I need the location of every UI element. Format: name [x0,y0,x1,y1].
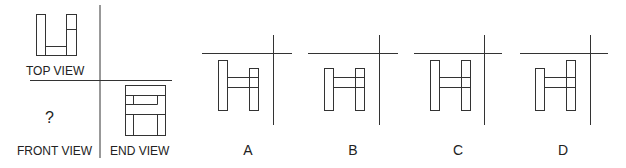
top-view-drawing [37,15,77,56]
option-a-drawing[interactable] [202,35,292,125]
end-view-drawing [126,86,166,136]
option-c-label[interactable]: C [453,142,463,158]
unknown-front-view-marker: ? [45,109,54,127]
option-c-drawing[interactable] [414,35,502,125]
top-view-label: TOP VIEW [26,64,84,78]
front-view-label: FRONT VIEW [17,144,92,158]
option-d-label[interactable]: D [558,142,568,158]
option-d-drawing[interactable] [520,35,608,125]
option-a-label[interactable]: A [243,142,252,158]
orthographic-diagram [0,0,626,168]
end-view-label: END VIEW [110,144,169,158]
option-b-drawing[interactable] [308,35,398,125]
option-b-label[interactable]: B [348,142,357,158]
